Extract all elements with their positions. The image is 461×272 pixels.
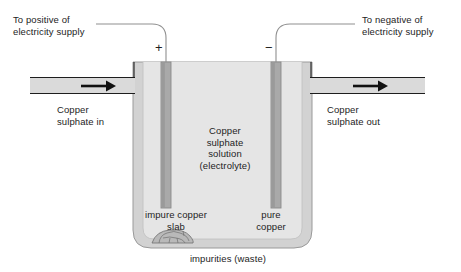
outlet-label: Copper sulphate out (327, 104, 380, 127)
cathode-pure-copper (271, 62, 281, 208)
electrolyte-label: Copper sulphate solution (electrolyte) (178, 125, 272, 171)
positive-terminal-sign: + (155, 41, 163, 54)
negative-supply-label: To negative of electricity supply (362, 14, 434, 37)
anode-impure-copper-slab (161, 62, 171, 208)
cathode-label: pure copper (243, 209, 299, 232)
copper-refining-diagram: To positive of electricity supply To neg… (0, 0, 461, 272)
impurities-label: impurities (waste) (148, 253, 308, 265)
inlet-label: Copper sulphate in (57, 104, 104, 127)
positive-supply-label: To positive of electricity supply (13, 14, 85, 37)
anode-label: impure copper slab (135, 209, 217, 232)
negative-terminal-sign: − (265, 41, 273, 54)
